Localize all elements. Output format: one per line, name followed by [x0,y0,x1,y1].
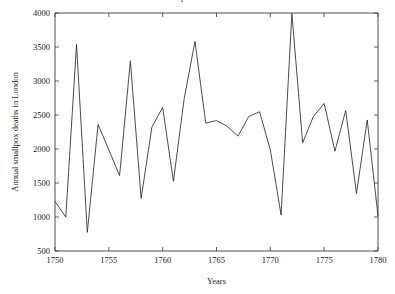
y-tick-label: 3500 [33,42,50,52]
y-tick-label: 1000 [33,212,50,222]
x-tick-label: 1770 [262,255,279,265]
tick-marks [55,13,378,251]
x-tick-label: 1775 [316,255,333,265]
y-axis-tick-labels: 5001000150020002500300035004000 [33,8,50,256]
y-tick-label: 2000 [33,144,50,154]
y-tick-label: 3000 [33,76,50,86]
chart-title-clipped: Annual smallpox deaths in London [0,0,395,2]
x-tick-label: 1760 [154,255,171,265]
smallpox-line-chart: 5001000150020002500300035004000 17501755… [0,0,395,294]
y-tick-label: 4000 [33,8,50,18]
axes [55,13,378,251]
chart-figure: Annual smallpox deaths in London 5001000… [0,0,395,294]
y-tick-label: 2500 [33,110,50,120]
series-smallpox-deaths [55,14,378,233]
x-axis-label: Years [207,276,226,286]
data-series [55,14,378,233]
y-tick-label: 1500 [33,178,50,188]
x-axis-tick-labels: 1750175517601765177017751780 [47,255,387,265]
x-tick-label: 1765 [208,255,225,265]
x-tick-label: 1755 [100,255,117,265]
x-tick-label: 1750 [47,255,64,265]
x-tick-label: 1780 [370,255,387,265]
y-axis-label: Annual smallpox deaths in London [10,72,20,192]
